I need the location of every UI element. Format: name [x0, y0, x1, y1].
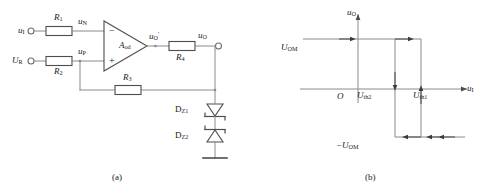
- terminal-uo: [216, 43, 222, 49]
- chart-label-uth2: Uth2: [357, 91, 371, 101]
- label-input-ur: UR: [12, 56, 23, 66]
- circuit-schematic: [0, 0, 243, 196]
- label-opamp-plus: +: [109, 56, 115, 66]
- node-dot-uo-prime: [154, 45, 157, 48]
- chart-label-uom-negative: −UOM: [336, 141, 359, 151]
- resistor-r4-body: [169, 42, 195, 51]
- label-opamp-gain: Aod: [119, 41, 131, 51]
- chart-label-uom-positive: UOM: [281, 43, 297, 53]
- caption-a: (a): [112, 172, 122, 182]
- resistor-r1-body: [46, 27, 72, 36]
- label-output-uo: uO: [198, 31, 207, 41]
- zener-dz2-triangle: [207, 130, 223, 142]
- figure-root: uI UR R1 R2 uN uP − + Aod uO′ R4 uO R3 D…: [0, 0, 485, 196]
- chart-origin-label: O: [337, 92, 344, 101]
- chart-ylabel: uO: [347, 8, 356, 18]
- node-dot-up: [79, 60, 82, 63]
- label-resistor-r3: R3: [123, 73, 132, 83]
- resistor-r3-body: [115, 86, 141, 95]
- label-input-ui: uI: [18, 26, 25, 36]
- chart-xlabel: uI: [467, 84, 474, 94]
- terminal-ur: [28, 58, 34, 64]
- zener-dz1-triangle: [207, 104, 223, 116]
- resistor-r2-body: [46, 57, 72, 66]
- label-zener-dz2: DZ2: [175, 131, 188, 141]
- terminal-ui: [28, 28, 34, 34]
- label-zener-dz1: DZ1: [175, 105, 188, 115]
- chart-label-uth1: Uth1: [413, 91, 427, 101]
- label-resistor-r4: R4: [176, 53, 185, 63]
- label-resistor-r1: R1: [54, 13, 63, 23]
- label-node-up: uP: [78, 47, 86, 57]
- label-node-un: uN: [78, 17, 87, 27]
- label-opamp-minus: −: [109, 26, 115, 36]
- label-resistor-r2: R2: [54, 67, 63, 77]
- caption-b: (b): [365, 172, 376, 182]
- label-output-prime: uO′: [149, 31, 159, 41]
